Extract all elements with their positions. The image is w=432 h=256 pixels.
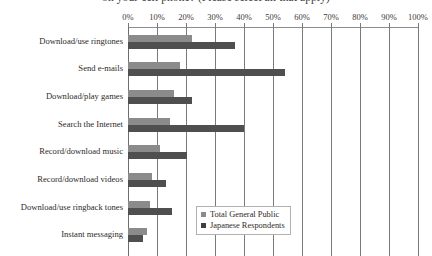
bar bbox=[128, 235, 143, 242]
bar bbox=[128, 62, 180, 69]
bar bbox=[128, 42, 235, 49]
category-label: Instant messaging bbox=[0, 229, 123, 239]
bar bbox=[128, 69, 285, 76]
category-label: Send e-mails bbox=[0, 63, 123, 73]
legend-item-japanese-respondents: Japanese Respondents bbox=[201, 220, 285, 231]
bar bbox=[128, 35, 192, 42]
legend-swatch-icon bbox=[201, 212, 206, 217]
bar bbox=[128, 173, 152, 180]
chart-title: on your cell phone? (Please select all t… bbox=[0, 0, 432, 3]
bar-chart: on your cell phone? (Please select all t… bbox=[0, 0, 432, 256]
legend-swatch-icon bbox=[201, 223, 206, 228]
bar bbox=[128, 145, 160, 152]
legend-item-total-general-public: Total General Public bbox=[201, 209, 285, 220]
chart-legend: Total General Public Japanese Respondent… bbox=[196, 206, 291, 235]
x-tick-label: 30% bbox=[207, 12, 223, 22]
category-label: Search the Internet bbox=[0, 119, 123, 129]
category-label: Download/use ringback tones bbox=[0, 202, 123, 212]
gridline bbox=[186, 28, 187, 256]
bar bbox=[128, 118, 170, 125]
gridline bbox=[302, 28, 303, 256]
bar bbox=[128, 125, 244, 132]
legend-label: Japanese Respondents bbox=[210, 220, 285, 231]
x-tick-label: 50% bbox=[265, 12, 281, 22]
category-label: Record/download music bbox=[0, 146, 123, 156]
x-tick-label: 10% bbox=[149, 12, 165, 22]
bar bbox=[128, 208, 172, 215]
x-tick-label: 60% bbox=[294, 12, 310, 22]
x-tick-label: 70% bbox=[323, 12, 339, 22]
category-label: Download/use ringtones bbox=[0, 36, 123, 46]
bar bbox=[128, 97, 192, 104]
x-tick-label: 100% bbox=[408, 12, 428, 22]
x-tick-label: 80% bbox=[352, 12, 368, 22]
x-tick-label: 90% bbox=[381, 12, 397, 22]
bar bbox=[128, 152, 187, 159]
legend-label: Total General Public bbox=[210, 209, 279, 220]
gridline bbox=[331, 28, 332, 256]
x-tick-label: 20% bbox=[178, 12, 194, 22]
x-tick-label: 40% bbox=[236, 12, 252, 22]
bar bbox=[128, 180, 166, 187]
gridline bbox=[360, 28, 361, 256]
x-tick-label: 0% bbox=[122, 12, 133, 22]
bar bbox=[128, 90, 174, 97]
category-label: Download/play games bbox=[0, 91, 123, 101]
category-label: Record/download videos bbox=[0, 174, 123, 184]
gridline bbox=[389, 28, 390, 256]
gridline bbox=[418, 28, 419, 256]
bar bbox=[128, 228, 147, 235]
bar bbox=[128, 201, 150, 208]
